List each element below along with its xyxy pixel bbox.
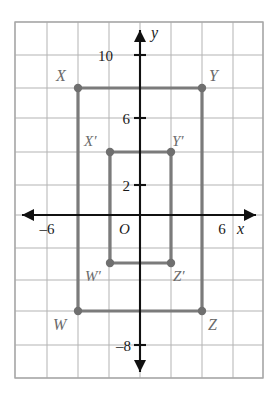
x-tick-label-pos6: 6 xyxy=(218,221,226,237)
origin-label: O xyxy=(119,221,130,237)
vertex-label-W-prime: W′ xyxy=(85,268,101,284)
y-tick-label-10: 10 xyxy=(98,48,113,64)
vertex-dot-Z xyxy=(198,307,206,315)
vertex-label-Y-prime: Y′ xyxy=(172,133,184,149)
x-axis-label: x xyxy=(236,220,244,237)
x-tick-label-neg6: –6 xyxy=(39,221,56,237)
y-axis-label: y xyxy=(149,24,159,42)
coordinate-plane-figure: X Y W Z X′ Y′ W′ Z′ 10 6 2 –8 –6 6 y x O xyxy=(0,0,279,403)
vertex-dot-X-prime xyxy=(106,148,114,156)
coordinate-plane-svg: X Y W Z X′ Y′ W′ Z′ 10 6 2 –8 –6 6 y x O xyxy=(0,0,279,403)
vertex-dot-Z-prime xyxy=(167,259,175,267)
vertex-label-Z-prime: Z′ xyxy=(173,268,185,284)
vertex-label-W: W xyxy=(53,316,68,333)
vertex-dot-Y-prime xyxy=(167,148,175,156)
vertex-dot-Y xyxy=(198,84,206,92)
y-tick-label-2: 2 xyxy=(123,178,131,194)
vertex-dot-W xyxy=(74,307,82,315)
vertex-label-X: X xyxy=(55,67,67,84)
vertex-dot-X xyxy=(74,84,82,92)
vertex-label-X-prime: X′ xyxy=(83,133,97,149)
vertex-dot-W-prime xyxy=(106,259,114,267)
y-tick-label-neg8: –8 xyxy=(115,338,131,354)
y-tick-label-6: 6 xyxy=(123,111,131,127)
vertex-label-Z: Z xyxy=(208,316,218,333)
